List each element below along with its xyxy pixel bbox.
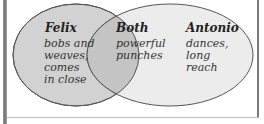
antonio-title: Antonio (186, 21, 239, 35)
both-trait-line: punches (116, 50, 166, 62)
felix-trait-line: in close (44, 74, 95, 86)
felix-traits: bobs and weaves, comes in close (44, 38, 95, 86)
antonio-traits: dances, long reach (186, 38, 229, 74)
both-traits: powerful punches (116, 38, 166, 62)
felix-title: Felix (45, 21, 77, 35)
antonio-trait-line: reach (186, 62, 229, 74)
both-title: Both (116, 21, 148, 35)
